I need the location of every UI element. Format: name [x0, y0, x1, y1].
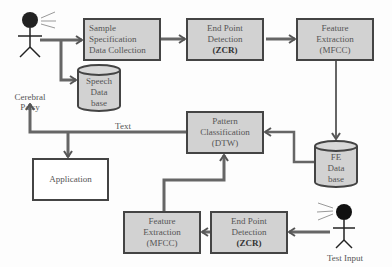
line: Cerebral: [8, 92, 52, 102]
feature-extraction-box: Feature Extraction (MFCC): [296, 18, 374, 61]
line: Feature: [149, 216, 176, 227]
sample-specification-box: Sample Specification Data Collection: [83, 18, 161, 61]
line: Specification: [89, 34, 136, 45]
speech-recognition-diagram: Sample Specification Data Collection End…: [0, 0, 392, 267]
cerebral-palsy-label: Cerebral Palsy: [8, 92, 52, 112]
line: base: [78, 98, 120, 109]
line: (MFCC): [146, 238, 177, 249]
line: Detection: [232, 227, 267, 238]
test-input-label: Test Input: [320, 253, 370, 263]
line: Data: [78, 87, 120, 98]
line: Data Collection: [89, 45, 146, 56]
speaker-figure-icon: [18, 12, 56, 57]
line: Application: [49, 174, 92, 185]
line: End Point: [231, 216, 267, 227]
text-label: Text: [108, 121, 138, 131]
line: Palsy: [8, 102, 52, 112]
line: Speech: [78, 76, 120, 87]
line: Feature: [322, 23, 349, 34]
end-point-detection-test-box: End Point Detection (ZCR): [210, 211, 288, 254]
line: Pattern: [212, 116, 238, 127]
line: Sample: [89, 23, 116, 34]
speech-database: Speech Data base: [78, 76, 120, 112]
line: (ZCR): [237, 238, 262, 249]
feature-extraction-test-box: Feature Extraction (MFCC): [123, 211, 201, 254]
fe-database: FE Data base: [315, 152, 357, 188]
application-box: Application: [32, 158, 109, 201]
line: Detection: [208, 34, 243, 45]
line: FE: [315, 152, 357, 163]
pattern-classification-box: Pattern Classification (DTW): [186, 111, 264, 154]
line: End Point: [207, 23, 243, 34]
line: Extraction: [143, 227, 181, 238]
test-speaker-figure-icon: [317, 203, 355, 248]
line: Extraction: [316, 34, 354, 45]
line: Classification: [200, 127, 250, 138]
end-point-detection-box: End Point Detection (ZCR): [186, 18, 264, 61]
line: (MFCC): [319, 45, 350, 56]
line: (DTW): [212, 138, 239, 149]
line: Data: [315, 163, 357, 174]
line: (ZCR): [213, 45, 238, 56]
line: base: [315, 174, 357, 185]
